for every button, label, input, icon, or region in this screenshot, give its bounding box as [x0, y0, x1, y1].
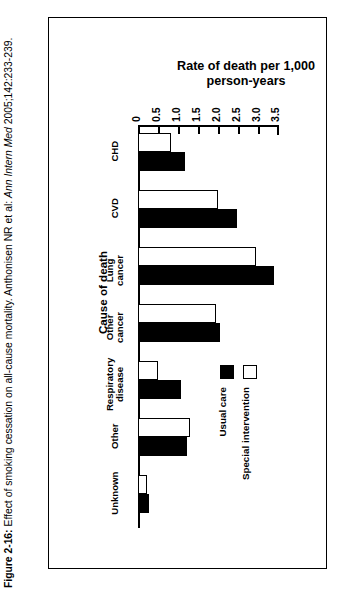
axis-tick-label: 0.5 — [150, 107, 162, 122]
value-axis: 0 0.5 1.0 1.5 2.0 2.5 3.0 3.5 — [138, 125, 279, 126]
axis-tick-label: 2.0 — [210, 107, 222, 122]
axis-tick-label: 1.0 — [170, 107, 182, 122]
bar-respiratory-disease-special — [138, 361, 158, 380]
chart-legend: Special intervention Usual care — [215, 365, 305, 495]
bar-lung-cancer-special — [138, 247, 256, 266]
bar-cvd-special — [138, 190, 218, 209]
value-axis-title: Rate of death per 1,000 person-years — [171, 59, 321, 89]
bar-other-cancer-usual — [138, 323, 220, 342]
legend-swatch-special-intervention — [243, 365, 257, 379]
bar-lung-cancer-usual — [138, 266, 274, 285]
bar-unknown-usual — [138, 494, 149, 513]
legend-swatch-usual-care — [220, 365, 234, 379]
bar-chd-special — [138, 133, 171, 152]
bar-other-usual — [138, 437, 187, 456]
bar-other-special — [138, 418, 190, 437]
caption-journal: Ann Intern Med — [3, 127, 14, 198]
legend-label-special-intervention: Special intervention — [240, 387, 251, 480]
category-label-other: Other — [110, 413, 120, 459]
axis-tick-label: 2.5 — [230, 107, 242, 122]
bar-chd-usual — [138, 152, 185, 171]
bar-respiratory-disease-usual — [138, 380, 181, 399]
figure-number: Figure 2-16: — [3, 530, 14, 589]
axis-tick-label: 3.5 — [269, 107, 281, 122]
bar-cvd-usual — [138, 209, 237, 228]
category-label-chd: CHD — [110, 128, 120, 174]
legend-label-usual-care: Usual care — [217, 387, 228, 437]
figure-frame: Rate of death per 1,000 person-years 0 0… — [48, 17, 327, 569]
figure-page: Figure 2-16: Effect of smoking cessation… — [0, 0, 339, 596]
caption-body: Effect of smoking cessation on all-cause… — [3, 198, 14, 530]
figure-caption: Figure 2-16: Effect of smoking cessation… — [2, 8, 42, 588]
axis-tick-label: 0 — [130, 116, 142, 122]
axis-tick-label: 1.5 — [190, 107, 202, 122]
figure-caption-gutter: Figure 2-16: Effect of smoking cessation… — [0, 0, 44, 596]
bar-unknown-special — [138, 475, 147, 494]
category-label-cvd: CVD — [110, 185, 120, 231]
category-label-unknown: Unknown — [110, 470, 120, 516]
category-label-respiratory-disease: Respiratory disease — [105, 356, 126, 412]
category-axis-title: Cause of death — [96, 233, 109, 353]
chart-canvas: Rate of death per 1,000 person-years 0 0… — [49, 18, 328, 570]
caption-citation: 2005;142:233-239. — [3, 38, 14, 127]
axis-tick-label: 3.0 — [250, 107, 262, 122]
bar-other-cancer-special — [138, 304, 216, 323]
